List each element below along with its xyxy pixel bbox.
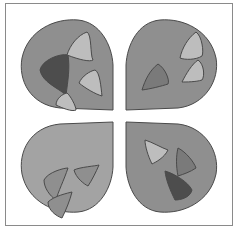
leaf-shape bbox=[126, 20, 217, 110]
leaf-shape bbox=[126, 122, 217, 212]
leaf-bottom-left bbox=[21, 122, 113, 218]
leaf-top-left bbox=[21, 20, 113, 111]
leaves-group bbox=[21, 20, 216, 218]
leaf-bottom-right bbox=[126, 122, 217, 212]
leaf-top-right bbox=[126, 20, 217, 110]
puzzle-figure bbox=[0, 0, 238, 233]
